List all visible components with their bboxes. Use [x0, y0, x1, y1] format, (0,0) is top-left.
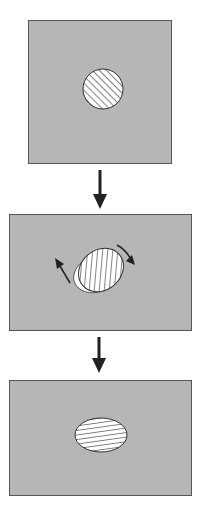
rotation-arrow-left: [55, 258, 70, 283]
hatched-circle: [83, 69, 123, 109]
hatched-ellipse: [75, 418, 127, 452]
down-arrow-2: [92, 337, 106, 373]
down-arrow-1: [93, 170, 107, 209]
diagram-canvas: [0, 0, 205, 512]
